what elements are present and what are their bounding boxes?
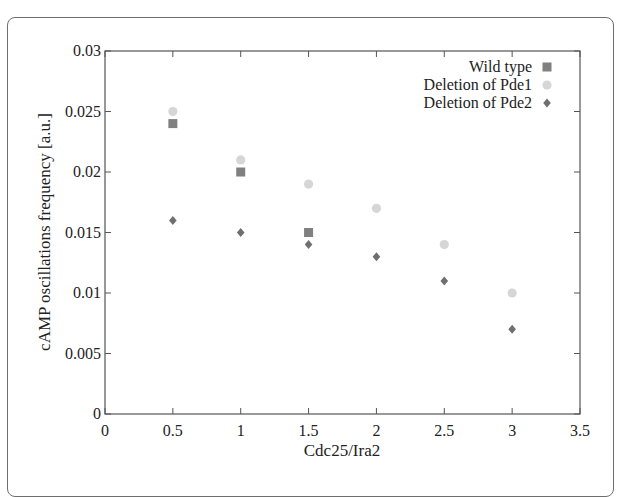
data-point-square — [304, 228, 313, 237]
y-tick-label: 0.025 — [65, 103, 101, 120]
data-point-diamond — [305, 240, 313, 249]
x-tick-label: 1 — [237, 422, 245, 439]
data-point-diamond — [508, 325, 516, 334]
x-tick-label: 0.5 — [163, 422, 183, 439]
legend-marker-circle — [542, 80, 551, 89]
x-tick-label: 2 — [372, 422, 380, 439]
legend-label: Deletion of Pde2 — [424, 94, 532, 111]
x-tick-label: 2.5 — [434, 422, 454, 439]
legend-marker-diamond — [543, 99, 551, 108]
legend-label: Deletion of Pde1 — [424, 76, 532, 93]
data-point-circle — [304, 180, 313, 189]
legend: Wild typeDeletion of Pde1Deletion of Pde… — [424, 58, 552, 111]
data-point-square — [236, 168, 245, 177]
y-tick-label: 0.03 — [73, 42, 101, 59]
y-tick-label: 0.01 — [73, 284, 101, 301]
data-point-diamond — [440, 276, 448, 285]
data-point-circle — [508, 288, 517, 297]
x-tick-label: 3 — [508, 422, 516, 439]
y-axis-title: cAMP oscillations frequency [a.u.] — [35, 113, 54, 351]
data-point-circle — [372, 204, 381, 213]
data-point-circle — [440, 240, 449, 249]
x-tick-label: 0 — [101, 422, 109, 439]
data-point-circle — [236, 155, 245, 164]
y-tick-label: 0.02 — [73, 163, 101, 180]
x-axis-title: Cdc25/Ira2 — [304, 441, 380, 460]
y-tick-label: 0.015 — [65, 224, 101, 241]
x-tick-label: 1.5 — [299, 422, 319, 439]
data-points — [168, 107, 516, 334]
data-point-diamond — [373, 252, 381, 261]
y-tick-label: 0.005 — [65, 345, 101, 362]
data-point-square — [168, 119, 177, 128]
legend-label: Wild type — [469, 58, 532, 76]
x-tick-label: 3.5 — [570, 422, 590, 439]
data-point-diamond — [169, 216, 177, 225]
data-point-diamond — [237, 228, 245, 237]
y-tick-label: 0 — [93, 405, 101, 422]
legend-marker-square — [543, 63, 552, 72]
data-point-circle — [168, 107, 177, 116]
